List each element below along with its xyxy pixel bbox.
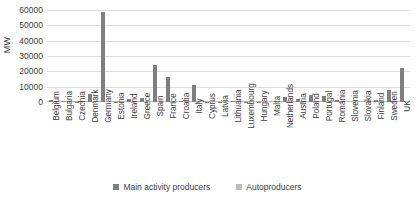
- bar-category: [177, 10, 190, 102]
- bar-category: [319, 10, 332, 102]
- x-axis-label-cell: Spain: [151, 104, 164, 174]
- bar-category: [229, 10, 242, 102]
- legend-item-autoproducers: Autoproducers: [236, 182, 301, 192]
- x-axis-label-cell: Netherlands: [280, 104, 293, 174]
- x-axis-label-cell: Portugal: [319, 104, 332, 174]
- x-axis-label-cell: Romania: [332, 104, 345, 174]
- x-axis-label-cell: Hungary: [255, 104, 268, 174]
- legend-item-main-activity-producers: Main activity producers: [113, 182, 210, 192]
- y-axis-title: MW: [2, 25, 12, 65]
- x-axis-label-cell: Latvia: [216, 104, 229, 174]
- legend-swatch-main-activity-producers: [113, 184, 119, 190]
- x-axis-label-cell: Sweden: [384, 104, 397, 174]
- legend-label-autoproducers: Autoproducers: [246, 182, 301, 192]
- x-axis-label-cell: Cyprus: [203, 104, 216, 174]
- plot-area: 0100002000030000400005000060000: [47, 10, 410, 102]
- x-axis-label-cell: France: [164, 104, 177, 174]
- bar-chart: MW 0100002000030000400005000060000 Belgi…: [0, 0, 415, 200]
- bar-category: [332, 10, 345, 102]
- x-axis-label-cell: Malta: [267, 104, 280, 174]
- y-axis-tick-label: 10000: [19, 82, 43, 91]
- bar-category: [255, 10, 268, 102]
- x-axis-label-cell: Slovenia: [345, 104, 358, 174]
- x-axis-labels: BelgiumBulgariaCzechiaDenmarkGermanyEsto…: [47, 104, 410, 174]
- x-axis-label-cell: Austria: [293, 104, 306, 174]
- bar-category: [216, 10, 229, 102]
- x-axis-label-cell: Estonia: [112, 104, 125, 174]
- chart-legend: Main activity producers Autoproducers: [0, 182, 415, 192]
- x-axis-label-cell: Poland: [306, 104, 319, 174]
- x-axis-label-cell: Ireland: [125, 104, 138, 174]
- x-axis-label-cell: Slovakia: [358, 104, 371, 174]
- y-axis-tick-label: 0: [38, 98, 43, 107]
- bar-category: [86, 10, 99, 102]
- bar-category: [371, 10, 384, 102]
- x-axis-label-cell: Italy: [190, 104, 203, 174]
- x-axis-label-cell: Greece: [138, 104, 151, 174]
- x-axis-label-cell: Germany: [99, 104, 112, 174]
- bar-category: [73, 10, 86, 102]
- bar-category: [267, 10, 280, 102]
- y-axis-tick-label: 20000: [19, 67, 43, 76]
- y-axis-tick-label: 50000: [19, 21, 43, 30]
- bar-category: [164, 10, 177, 102]
- bar-category: [138, 10, 151, 102]
- bar-main-activity-producers: [400, 68, 404, 102]
- x-axis-tick-label: UK: [404, 100, 412, 111]
- x-axis-label-cell: Czechia: [73, 104, 86, 174]
- bar-category: [125, 10, 138, 102]
- bar-category: [60, 10, 73, 102]
- bar-category: [190, 10, 203, 102]
- bar-category: [397, 10, 410, 102]
- y-axis-tick-label: 40000: [19, 36, 43, 45]
- y-axis-tick-label: 60000: [19, 6, 43, 15]
- bar-category: [151, 10, 164, 102]
- x-axis-label-cell: Bulgaria: [60, 104, 73, 174]
- bar-category: [358, 10, 371, 102]
- x-axis-label-cell: Lithuania: [229, 104, 242, 174]
- legend-label-main-activity-producers: Main activity producers: [123, 182, 210, 192]
- bar-category: [384, 10, 397, 102]
- bar-category: [47, 10, 60, 102]
- y-axis-tick-label: 30000: [19, 52, 43, 61]
- x-axis-label-cell: Belgium: [47, 104, 60, 174]
- x-axis-label-cell: UK: [397, 104, 410, 174]
- bar-category: [203, 10, 216, 102]
- x-axis-label-cell: Finland: [371, 104, 384, 174]
- x-axis-label-cell: Luxembourg: [242, 104, 255, 174]
- bar-group: [47, 10, 410, 102]
- bar-category: [293, 10, 306, 102]
- legend-swatch-autoproducers: [236, 184, 242, 190]
- bar-category: [112, 10, 125, 102]
- bar-category: [345, 10, 358, 102]
- x-axis-label-cell: Croatia: [177, 104, 190, 174]
- x-axis-label-cell: Denmark: [86, 104, 99, 174]
- bar-category: [306, 10, 319, 102]
